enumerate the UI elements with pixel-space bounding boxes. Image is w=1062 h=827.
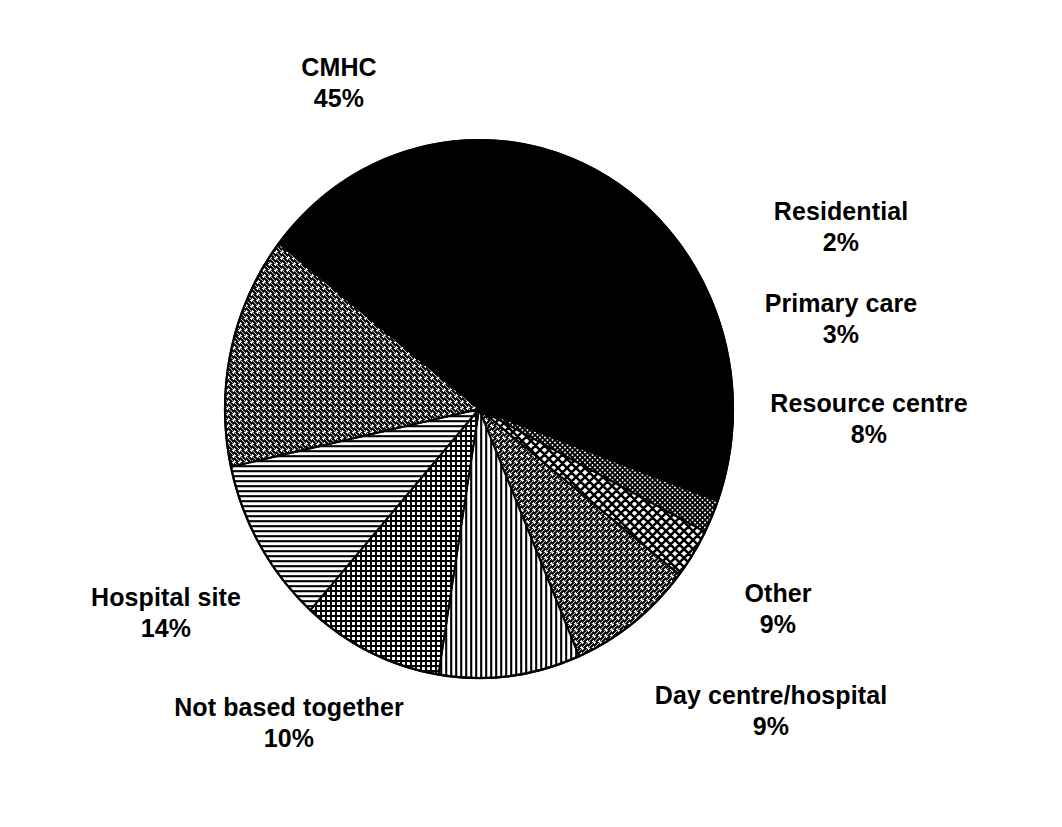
pie-label-other-name: Other	[700, 578, 856, 609]
pie-label-not-based-together-value: 10%	[96, 723, 482, 754]
pie-label-other: Other 9%	[700, 578, 856, 639]
pie-label-residential-value: 2%	[716, 227, 966, 258]
pie-label-hospital-site: Hospital site 14%	[36, 582, 296, 643]
pie-label-other-value: 9%	[700, 609, 856, 640]
pie-label-cmhc-name: CMHC	[232, 52, 446, 83]
pie-label-not-based-together-name: Not based together	[96, 692, 482, 723]
pie-label-day-centre-hospital-value: 9%	[580, 711, 962, 742]
pie-label-primary-care: Primary care 3%	[716, 288, 966, 349]
pie-label-primary-care-name: Primary care	[716, 288, 966, 319]
pie-label-resource-centre-value: 8%	[716, 419, 1022, 450]
pie-label-primary-care-value: 3%	[716, 319, 966, 350]
pie-label-hospital-site-name: Hospital site	[36, 582, 296, 613]
pie-label-hospital-site-value: 14%	[36, 613, 296, 644]
pie-slice-group	[225, 140, 733, 678]
pie-label-cmhc: CMHC 45%	[232, 52, 446, 113]
pie-label-day-centre-hospital-name: Day centre/hospital	[580, 680, 962, 711]
pie-label-not-based-together: Not based together 10%	[96, 692, 482, 753]
pie-label-resource-centre-name: Resource centre	[716, 388, 1022, 419]
pie-label-resource-centre: Resource centre 8%	[716, 388, 1022, 449]
pie-label-residential: Residential 2%	[716, 196, 966, 257]
pie-chart-figure: CMHC 45% Residential 2% Primary care 3% …	[0, 0, 1062, 827]
pie-label-day-centre-hospital: Day centre/hospital 9%	[580, 680, 962, 741]
pie-label-cmhc-value: 45%	[232, 83, 446, 114]
pie-label-residential-name: Residential	[716, 196, 966, 227]
